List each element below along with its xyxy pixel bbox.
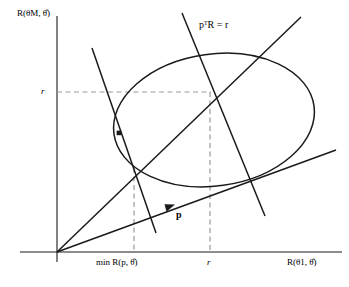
y-axis-label-text: R(θM, θ̂): [17, 8, 50, 18]
x-axis-label: R(θ1, θ̂): [287, 258, 317, 267]
dashed-guides-group: [57, 92, 211, 252]
x-tick-min-text: min R(p, θ̂): [96, 257, 138, 267]
constraint-equation-label: pᵀR = r: [199, 20, 228, 30]
risk-set-ellipse: [105, 41, 323, 200]
x-tick-label-min: min R(p, θ̂): [96, 258, 138, 267]
y-tick-label-r: r: [41, 87, 45, 96]
rays-group: [57, 17, 336, 252]
axes-group: [20, 16, 342, 262]
vector-p-label: p: [176, 210, 182, 220]
ray-lower-line: [57, 150, 336, 252]
y-axis-label: R(θM, θ̂): [17, 9, 50, 18]
diagram-svg: [0, 0, 349, 287]
figure-canvas: R(θM, θ̂) R(θ1, θ̂) r r min R(p, θ̂) pᵀR…: [0, 0, 349, 287]
tangency-point-marker: [117, 131, 122, 136]
x-axis-label-text: R(θ1, θ̂): [287, 257, 317, 267]
x-tick-label-r: r: [207, 258, 211, 267]
constraint-equation-text: pᵀR = r: [199, 19, 228, 30]
